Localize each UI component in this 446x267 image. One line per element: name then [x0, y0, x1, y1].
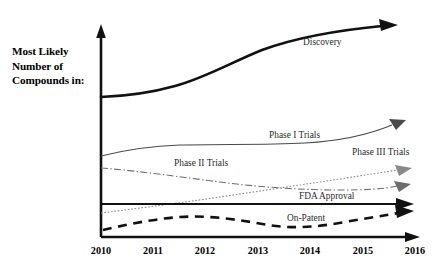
- x-tick-2016: 2016: [405, 245, 425, 256]
- x-tick-2014: 2014: [300, 245, 320, 256]
- series-label-fda-approval: FDA Approval: [299, 191, 354, 201]
- series-discovery-arrowhead: [379, 19, 398, 31]
- series-on-patent: [103, 205, 414, 230]
- pharma-pipeline-chart: Most Likely Number of Compounds in: Disc…: [0, 0, 446, 267]
- series-label-phase-2: Phase II Trials: [174, 158, 228, 168]
- series-fda-approval: [101, 198, 414, 210]
- chart-canvas: [0, 0, 446, 267]
- series-phase-2-line: [101, 168, 397, 190]
- series-phase-1-line: [101, 125, 392, 156]
- series-discovery: [101, 19, 398, 97]
- series-phase-2-arrowhead: [394, 181, 411, 192]
- y-axis-arrowhead: [96, 24, 106, 38]
- series-on-patent-line: [103, 213, 398, 230]
- series-label-phase-1: Phase I Trials: [269, 130, 320, 140]
- series-phase-1-arrowhead: [389, 119, 406, 130]
- series-phase-2: [101, 168, 411, 192]
- x-axis-arrowhead: [405, 232, 420, 242]
- series-label-on-patent: On-Patent: [287, 213, 325, 223]
- x-tick-2012: 2012: [195, 245, 215, 256]
- axes-group: [96, 24, 420, 242]
- series-label-discovery: Discovery: [303, 37, 342, 47]
- series-label-phase-3: Phase III Trials: [352, 147, 409, 157]
- x-tick-2010: 2010: [91, 245, 111, 256]
- series-phase-3-arrowhead: [395, 165, 412, 176]
- x-tick-2015: 2015: [353, 245, 373, 256]
- x-tick-2011: 2011: [143, 245, 163, 256]
- y-axis-title: Most Likely Number of Compounds in:: [12, 44, 98, 88]
- x-tick-2013: 2013: [248, 245, 268, 256]
